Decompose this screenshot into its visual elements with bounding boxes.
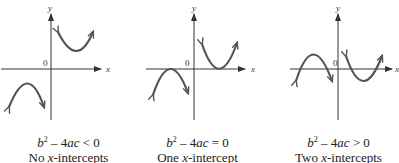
desc-post: -intercepts	[54, 150, 109, 163]
desc-pre: No	[29, 150, 48, 163]
var-ac: ac	[337, 135, 349, 150]
minus-four: – 4	[318, 135, 338, 150]
origin-label: 0	[43, 58, 48, 68]
parabola-downward	[153, 69, 188, 95]
y-axis-label: y	[47, 3, 52, 13]
var-ac: ac	[67, 135, 79, 150]
desc-post: -intercept	[188, 150, 238, 163]
relation: < 0	[79, 135, 99, 150]
var-ac: ac	[196, 135, 208, 150]
intercept-description: No x-intercepts	[2, 150, 135, 163]
parabola-upward	[58, 32, 93, 51]
discriminant-condition: b2 – 4ac < 0	[2, 132, 135, 150]
minus-four: – 4	[177, 135, 197, 150]
relation: > 0	[349, 135, 369, 150]
intercept-description: One x-intercept	[131, 150, 264, 163]
parabola-upward-tangent	[202, 43, 237, 69]
relation: = 0	[208, 135, 228, 150]
origin-label: 0	[185, 58, 190, 68]
discriminant-condition: b2 – 4ac = 0	[131, 132, 264, 150]
x-axis-label: x	[250, 64, 255, 74]
panel-two-intercepts-graph	[290, 14, 392, 120]
caption-one-intercept: b2 – 4ac = 0 One x-intercept	[131, 132, 264, 163]
parabola-downward-crossing	[296, 55, 332, 82]
intercept-description: Two x-intercepts	[272, 150, 399, 163]
desc-pre: One	[157, 150, 182, 163]
origin-label: 0	[333, 58, 338, 68]
y-axis-label: y	[335, 3, 340, 13]
panel-no-intercepts-graph	[1, 14, 101, 120]
x-axis-label: x	[394, 64, 399, 74]
discriminant-condition: b2 – 4ac > 0	[272, 132, 399, 150]
caption-no-intercepts: b2 – 4ac < 0 No x-intercepts	[2, 132, 135, 163]
caption-two-intercepts: b2 – 4ac > 0 Two x-intercepts	[272, 132, 399, 163]
desc-pre: Two	[295, 150, 321, 163]
parabola-downward	[9, 84, 44, 108]
minus-four: – 4	[48, 135, 68, 150]
x-axis-label: x	[105, 64, 110, 74]
desc-post: -intercepts	[327, 150, 382, 163]
y-axis-label: y	[191, 3, 196, 13]
panel-one-intercept-graph	[146, 14, 245, 120]
